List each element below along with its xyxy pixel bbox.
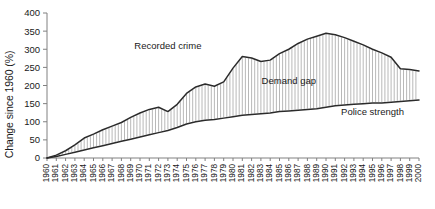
x-tick-label: 1980	[228, 164, 237, 183]
x-tick-label: 1987	[293, 164, 302, 183]
x-tick-label: 1961	[51, 164, 60, 183]
x-tick-label: 1967	[107, 164, 116, 183]
x-tick-label: 1989	[312, 164, 321, 183]
x-tick-label: 1968	[117, 164, 126, 183]
x-tick-label: 1966	[98, 164, 107, 183]
y-tick-label: 100	[24, 116, 40, 127]
x-tick-label: 1988	[303, 164, 312, 183]
x-tick-label: 1976	[191, 164, 200, 183]
y-tick-label: 200	[24, 80, 40, 91]
x-tick-label: 1979	[219, 164, 228, 183]
x-axis-tick-group: 1960196119621963196419651966196719681969…	[42, 158, 423, 182]
x-tick-label: 1992	[340, 164, 349, 183]
y-tick-label: 400	[24, 7, 40, 18]
x-tick-label: 1969	[126, 164, 135, 183]
x-tick-label: 1975	[182, 164, 191, 183]
chart-annotation-label: Recorded crime	[134, 40, 201, 51]
x-tick-label: 1983	[256, 164, 265, 183]
x-tick-label: 1995	[368, 164, 377, 183]
x-tick-label: 1982	[247, 164, 256, 183]
chart-plot-area: 050100150200250300350400 196019611962196…	[0, 0, 435, 209]
x-tick-label: 1970	[135, 164, 144, 183]
x-tick-label: 2000	[414, 164, 423, 183]
x-tick-label: 1978	[210, 164, 219, 183]
x-tick-label: 1977	[200, 164, 209, 183]
x-tick-label: 1972	[154, 164, 163, 183]
x-tick-label: 1960	[42, 164, 51, 183]
chart-annotation-label: Police strength	[341, 106, 404, 117]
y-tick-label: 250	[24, 62, 40, 73]
x-tick-label: 1963	[70, 164, 79, 183]
x-tick-label: 1981	[237, 164, 246, 183]
y-tick-label: 0	[35, 152, 40, 163]
x-tick-label: 1994	[358, 164, 367, 183]
y-tick-label: 50	[29, 134, 40, 145]
x-tick-label: 1973	[163, 164, 172, 183]
chart-annotation-label: Demand gap	[262, 75, 316, 86]
x-tick-label: 1996	[377, 164, 386, 183]
x-tick-label: 1998	[396, 164, 405, 183]
x-tick-label: 1965	[89, 164, 98, 183]
y-tick-label: 300	[24, 44, 40, 55]
crime-vs-police-strength-chart: Change since 1960 (%) 050100150200250300…	[0, 0, 435, 209]
x-tick-label: 1962	[61, 164, 70, 183]
x-tick-label: 1984	[265, 164, 274, 183]
x-tick-label: 1993	[349, 164, 358, 183]
x-tick-label: 1990	[321, 164, 330, 183]
x-tick-label: 1985	[275, 164, 284, 183]
demand-gap-hatching	[59, 34, 416, 155]
x-tick-label: 1974	[172, 164, 181, 183]
x-tick-label: 1964	[79, 164, 88, 183]
x-tick-label: 1971	[144, 164, 153, 183]
y-tick-label: 150	[24, 98, 40, 109]
x-tick-label: 1997	[386, 164, 395, 183]
x-tick-label: 1999	[405, 164, 414, 183]
x-tick-label: 1991	[330, 164, 339, 183]
x-tick-label: 1986	[284, 164, 293, 183]
y-axis-tick-group: 050100150200250300350400	[24, 7, 47, 163]
y-tick-label: 350	[24, 26, 40, 37]
